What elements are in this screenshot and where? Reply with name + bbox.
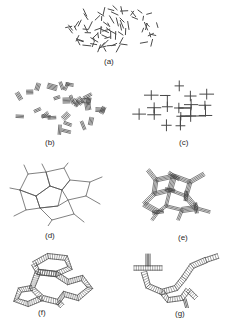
panel-a [62,4,170,56]
panel-c-graphic [126,78,226,136]
figure-root: (a) (b) (c) (d) (e) (f) (g) [0,0,232,321]
panel-d-graphic [8,160,112,226]
panel-g-label: (g) [175,310,185,318]
panel-b-graphic [8,78,112,136]
panel-f-graphic [8,248,112,308]
panel-g [126,248,226,308]
panel-a-label: (a) [104,58,114,66]
panel-e-graphic [126,160,226,226]
panel-b [8,78,112,136]
panel-g-graphic [126,248,226,308]
panel-d-label: (d) [45,232,55,240]
panel-e-label: (e) [178,234,188,242]
panel-f [8,248,112,308]
panel-a-graphic [62,4,170,56]
panel-f-label: (f) [38,309,46,317]
panel-c [126,78,226,136]
panel-b-label: (b) [45,139,55,147]
panel-d [8,160,112,226]
panel-e [126,160,226,226]
panel-c-label: (c) [179,139,188,147]
